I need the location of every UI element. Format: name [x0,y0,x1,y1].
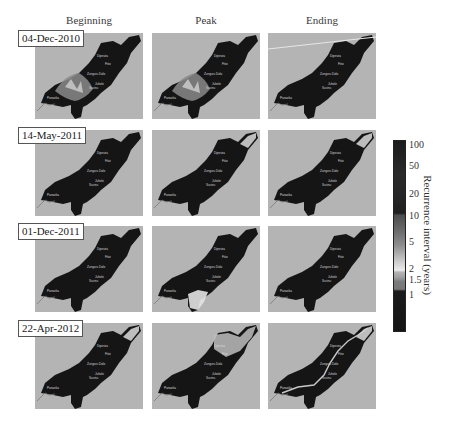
colorbar-tick-10: 10 [409,211,419,221]
svg-text:Dipesira: Dipesira [330,151,341,155]
svg-text:Fitio: Fitio [338,352,344,356]
svg-text:Sucinu: Sucinu [322,86,332,90]
svg-text:Fitio: Fitio [338,62,344,66]
svg-text:Dipesira: Dipesira [214,151,225,155]
svg-text:Dolo: Dolo [332,362,339,366]
svg-text:Fitio: Fitio [105,62,111,66]
svg-text:Dolo: Dolo [216,362,223,366]
map-panel-04-dec-2010-peak: DipesiraFitioZunguruDoloJuholeSucinuPana… [152,33,260,119]
svg-text:Dipesira: Dipesira [97,151,108,155]
date-label: 01-Dec-2011 [18,223,84,240]
colorbar [393,140,406,332]
svg-text:Panaeka: Panaeka [164,289,176,293]
region-map-icon: DipesiraFitioZunguruDoloJuholeSucinuPana… [152,323,260,409]
svg-text:Sucinu: Sucinu [89,376,99,380]
svg-text:Zunguru: Zunguru [320,169,332,173]
svg-text:Dipesira: Dipesira [97,247,108,251]
svg-text:Dipesira: Dipesira [97,344,108,348]
svg-text:Fitio: Fitio [105,255,111,259]
svg-text:Sucinu: Sucinu [89,183,99,187]
svg-text:Dolo: Dolo [99,265,106,269]
svg-text:Dolo: Dolo [99,72,106,76]
svg-text:Sucinu: Sucinu [206,279,216,283]
svg-text:Dolo: Dolo [216,72,223,76]
svg-text:Fitio: Fitio [105,159,111,163]
svg-text:Sucinu: Sucinu [89,279,99,283]
colorbar-tick-2: 2 [409,264,414,274]
svg-text:Zunguru: Zunguru [320,72,332,76]
region-map-icon: DipesiraFitioZunguruDoloJuholeSucinuPana… [268,226,376,312]
column-header-beginning: Beginning [34,14,144,26]
date-label: 14-May-2011 [18,127,86,144]
region-map-icon: DipesiraFitioZunguruDoloJuholeSucinuPana… [268,33,376,119]
svg-text:Sucinu: Sucinu [322,183,332,187]
colorbar-tick-20: 20 [409,189,419,199]
map-panel-01-dec-2011-peak: DipesiraFitioZunguruDoloJuholeSucinuPana… [152,226,260,312]
svg-text:Zunguru: Zunguru [204,265,216,269]
svg-text:Dipesira: Dipesira [214,54,225,58]
map-panel-01-dec-2011-ending: DipesiraFitioZunguruDoloJuholeSucinuPana… [268,226,376,312]
svg-text:Sucinu: Sucinu [206,376,216,380]
svg-text:Zunguru: Zunguru [204,72,216,76]
svg-text:Panaeka: Panaeka [47,193,59,197]
map-panel-22-apr-2012-ending: DipesiraFitioZunguruDoloJuholeSucinuPana… [268,323,376,409]
region-map-icon: DipesiraFitioZunguruDoloJuholeSucinuPana… [268,130,376,216]
svg-text:Dipesira: Dipesira [330,344,341,348]
svg-text:Zunguru: Zunguru [87,169,99,173]
svg-text:Sucinu: Sucinu [206,183,216,187]
svg-text:Panaeka: Panaeka [280,289,292,293]
colorbar-tick-1: 1 [409,290,414,300]
svg-text:Dolo: Dolo [99,169,106,173]
svg-text:Fitio: Fitio [338,255,344,259]
svg-text:Dipesira: Dipesira [97,54,108,58]
svg-text:Dipesira: Dipesira [330,54,341,58]
colorbar-tick-5: 5 [409,237,414,247]
column-header-ending: Ending [267,14,377,26]
svg-text:Zunguru: Zunguru [87,265,99,269]
svg-text:Dolo: Dolo [216,265,223,269]
colorbar-title: Recurrence interval (years) [422,175,434,295]
colorbar-tick-50: 50 [409,161,419,171]
map-panel-22-apr-2012-peak: DipesiraFitioZunguruDoloJuholeSucinuPana… [152,323,260,409]
svg-text:Panaeka: Panaeka [280,96,292,100]
svg-text:Dipesira: Dipesira [214,247,225,251]
svg-text:Sucinu: Sucinu [89,86,99,90]
region-map-icon: DipesiraFitioZunguruDoloJuholeSucinuPana… [152,33,260,119]
svg-text:Zunguru: Zunguru [320,265,332,269]
svg-text:Sucinu: Sucinu [322,376,332,380]
svg-text:Panaeka: Panaeka [47,386,59,390]
svg-text:Dolo: Dolo [99,362,106,366]
svg-text:Fitio: Fitio [222,352,228,356]
map-panel-14-may-2011-ending: DipesiraFitioZunguruDoloJuholeSucinuPana… [268,130,376,216]
svg-text:Dolo: Dolo [332,72,339,76]
svg-text:Zunguru: Zunguru [320,362,332,366]
region-map-icon: DipesiraFitioZunguruDoloJuholeSucinuPana… [152,130,260,216]
svg-text:Zunguru: Zunguru [87,72,99,76]
svg-text:Panaeka: Panaeka [164,193,176,197]
svg-text:Fitio: Fitio [222,255,228,259]
svg-text:Fitio: Fitio [222,159,228,163]
svg-text:Panaeka: Panaeka [164,96,176,100]
colorbar-tick-1-5: 1.5 [409,275,422,285]
svg-text:Zunguru: Zunguru [204,169,216,173]
svg-text:Zunguru: Zunguru [204,362,216,366]
region-map-icon: DipesiraFitioZunguruDoloJuholeSucinuPana… [152,226,260,312]
svg-text:Sucinu: Sucinu [206,86,216,90]
svg-text:Panaeka: Panaeka [47,96,59,100]
svg-text:Fitio: Fitio [105,352,111,356]
colorbar-tick-100: 100 [409,140,424,150]
date-label: 04-Dec-2010 [18,30,84,47]
svg-text:Panaeka: Panaeka [280,193,292,197]
svg-text:Zunguru: Zunguru [87,362,99,366]
svg-text:Panaeka: Panaeka [47,289,59,293]
column-header-peak: Peak [151,14,261,26]
svg-text:Dolo: Dolo [332,169,339,173]
svg-text:Sucinu: Sucinu [322,279,332,283]
svg-text:Dolo: Dolo [332,265,339,269]
map-panel-14-may-2011-peak: DipesiraFitioZunguruDoloJuholeSucinuPana… [152,130,260,216]
svg-text:Panaeka: Panaeka [280,386,292,390]
region-map-icon: DipesiraFitioZunguruDoloJuholeSucinuPana… [268,323,376,409]
svg-text:Dipesira: Dipesira [330,247,341,251]
svg-text:Dipesira: Dipesira [214,344,225,348]
svg-text:Fitio: Fitio [338,159,344,163]
